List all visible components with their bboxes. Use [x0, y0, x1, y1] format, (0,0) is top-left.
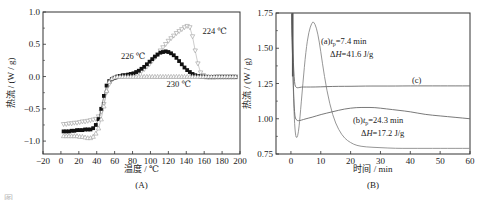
y-tick-label: −1.0: [24, 136, 41, 146]
panel-label: (B): [367, 180, 379, 190]
curve-b: [292, 11, 470, 121]
x-tick-label: 20: [74, 156, 84, 166]
y-tick-label: 1.75: [257, 8, 273, 18]
temperature-annotation: 226 ℃: [121, 51, 145, 61]
annotation-b: (b)tp=24.3 minΔH=17.2 J/g: [353, 115, 405, 138]
x-axis-label: 时间 / min: [353, 163, 393, 174]
annotation-b-line1: (b)tp=24.3 min: [353, 115, 404, 126]
x-tick-label: 160: [197, 156, 211, 166]
triangle-down-marker: [190, 35, 194, 39]
curve-c: [292, 11, 470, 88]
y-tick-label: 1.00: [257, 114, 273, 124]
x-tick-label: 140: [180, 156, 194, 166]
x-tick-label: 40: [92, 156, 102, 166]
y-tick-label: 1.25: [257, 79, 273, 89]
x-axis-label: 温度 / ℃: [124, 163, 159, 174]
y-tick-label: −0.5: [24, 104, 41, 114]
x-tick-label: 50: [436, 156, 446, 166]
triangle-up-marker: [104, 89, 108, 93]
temperature-annotation: 224 ℃: [202, 26, 226, 36]
x-tick-label: −20: [36, 156, 51, 166]
x-tick-label: 0: [59, 156, 64, 166]
x-tick-label: 60: [110, 156, 120, 166]
x-tick-label: 180: [215, 156, 229, 166]
annotation-c: (c): [412, 75, 422, 85]
figure: 1.00.50.0−0.5−1.0−2002040608010012014016…: [0, 0, 480, 200]
annotation-a: (a)tp=7.4 minΔH=41.6 J/g: [321, 36, 374, 59]
triangle-down-marker: [193, 49, 197, 53]
x-tick-label: 120: [162, 156, 176, 166]
figure-caption-partial: 图: [4, 192, 13, 200]
triangle-up-marker: [94, 131, 98, 135]
y-tick-label: 0.5: [29, 39, 41, 49]
x-tick-label: 60: [466, 156, 476, 166]
temperature-annotation: 230 ℃: [167, 79, 191, 89]
plot-area: [61, 24, 237, 139]
triangle-down-marker: [196, 62, 200, 66]
y-tick-label: 1.0: [29, 7, 41, 17]
y-tick-label: 0.75: [257, 149, 273, 159]
y-tick-label: 0.0: [29, 72, 41, 82]
x-tick-label: 40: [406, 156, 416, 166]
y-axis-label: 热流 / (W / g): [5, 58, 16, 109]
triangle-down-marker: [188, 26, 192, 30]
y-axis-label: 热流 / (W / g): [241, 58, 252, 109]
x-tick-label: 10: [316, 156, 326, 166]
y-tick-label: 1.50: [257, 43, 273, 53]
annotation-a-line2: ΔH=41.6 J/g: [330, 49, 374, 59]
square-marker: [94, 123, 98, 127]
chart-panel-a: 1.00.50.0−0.5−1.0−2002040608010012014016…: [5, 7, 247, 190]
x-tick-label: 0: [289, 156, 294, 166]
triangle-up-marker: [102, 104, 106, 108]
chart-panel-b: 0.751.001.251.501.750102030405060时间 / mi…: [241, 8, 475, 190]
annotation-a-line1: (a)tp=7.4 min: [321, 36, 367, 47]
chart-canvas: 1.00.50.0−0.5−1.0−2002040608010012014016…: [0, 0, 480, 200]
panel-label: (A): [135, 180, 148, 190]
annotation-b-line2: ΔH=17.2 J/g: [361, 128, 405, 138]
x-tick-label: 200: [233, 156, 247, 166]
